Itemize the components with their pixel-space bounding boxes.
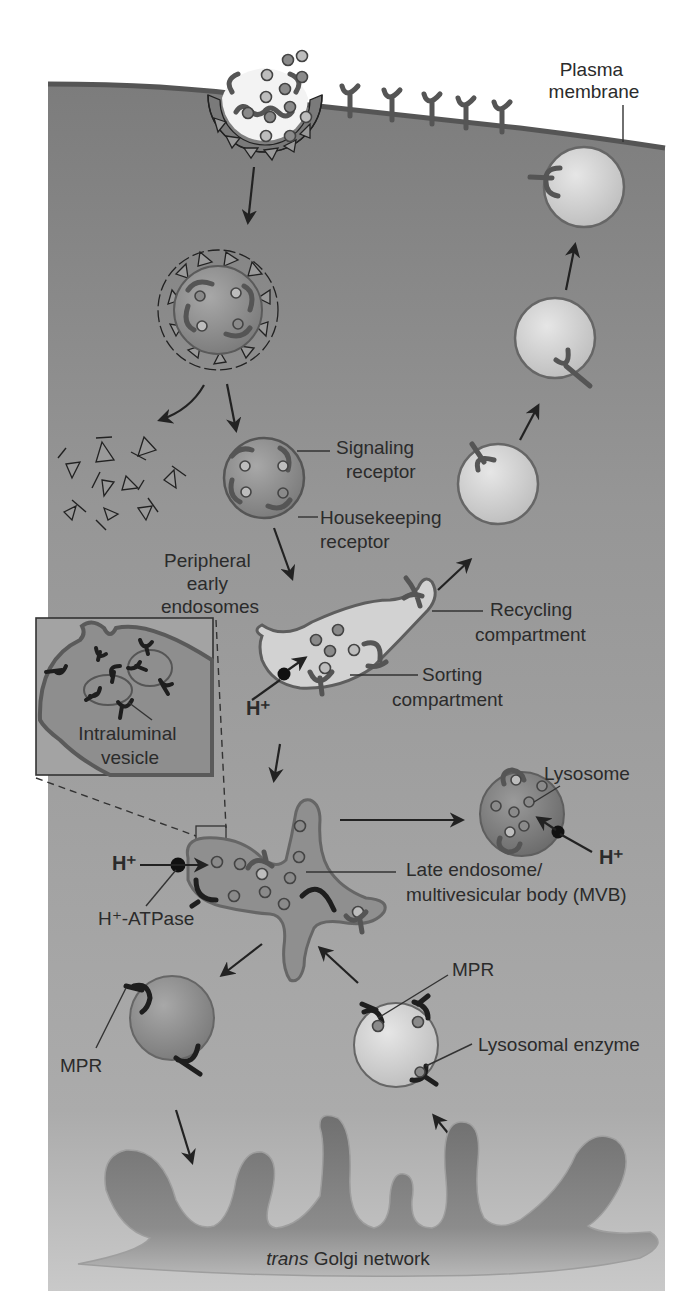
lysosomal-enzyme-label: Lysosomal enzyme <box>478 1034 640 1055</box>
h-plus-early-label: H⁺ <box>246 697 271 719</box>
trans-golgi-network-label: trans Golgi network <box>266 1248 430 1269</box>
h-plus-lysosome-label: H⁺ <box>599 846 624 868</box>
recycling-vesicle-1 <box>458 444 538 524</box>
mpr-right-label: MPR <box>452 959 494 980</box>
lysosome-label: Lysosome <box>544 763 630 784</box>
mpr-vesicle-right <box>354 996 438 1087</box>
intraluminal-vesicle-inset: Intraluminal vesicle <box>36 618 213 775</box>
h-plus-atpase-label: H⁺-ATPase <box>98 908 194 929</box>
h-plus-late-label: H⁺ <box>112 852 137 874</box>
endocytic-pathway-diagram: Plasma membrane <box>0 0 696 1291</box>
uncoated-vesicle <box>224 438 304 518</box>
plasma-membrane-label: Plasma membrane <box>549 59 640 102</box>
mpr-left-label: MPR <box>60 1055 102 1076</box>
